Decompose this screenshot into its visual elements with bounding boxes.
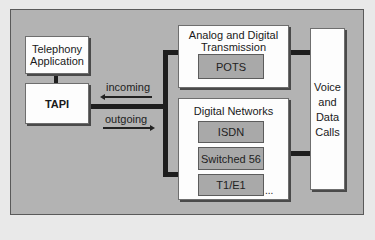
calls-line: Calls <box>311 125 344 140</box>
connector-analog-voice <box>290 50 311 55</box>
incoming-arrow <box>104 96 152 98</box>
connector-bus-vertical <box>163 50 168 177</box>
pots-box: POTS <box>198 54 264 79</box>
isdn-box: ISDN <box>198 121 264 143</box>
digital-networks-box: Digital Networks ISDN Switched 56 T1/E1 … <box>178 98 289 200</box>
voice-line: Voice <box>311 80 344 95</box>
connector-digital-voice <box>290 151 311 156</box>
incoming-label: incoming <box>106 81 150 93</box>
tapi-box: TAPI <box>25 83 89 124</box>
digital-networks-title: Digital Networks <box>179 105 288 117</box>
connector-bus-analog <box>163 50 179 55</box>
and-line: and <box>311 95 344 110</box>
analog-title-line1: Analog and Digital <box>179 29 288 41</box>
outgoing-arrow <box>103 127 151 129</box>
telephony-application-box: Telephony Application <box>25 36 89 74</box>
telephony-app-label-line2: Application <box>26 55 88 67</box>
t1-e1-box: T1/E1 <box>198 174 264 196</box>
analog-digital-transmission-box: Analog and Digital Transmission POTS <box>178 25 289 88</box>
analog-title-line2: Transmission <box>179 41 288 53</box>
data-line: Data <box>311 110 344 125</box>
outgoing-label: outgoing <box>105 113 147 125</box>
connector-bus-digital <box>163 172 179 177</box>
telephony-app-label-line1: Telephony <box>26 43 88 55</box>
connector-tapi-bus <box>89 104 167 109</box>
tapi-label: TAPI <box>26 98 88 110</box>
switched-56-box: Switched 56 <box>198 147 264 170</box>
voice-data-calls-box: Voice and Data Calls <box>310 28 345 190</box>
more-ellipsis: ... <box>265 185 273 197</box>
